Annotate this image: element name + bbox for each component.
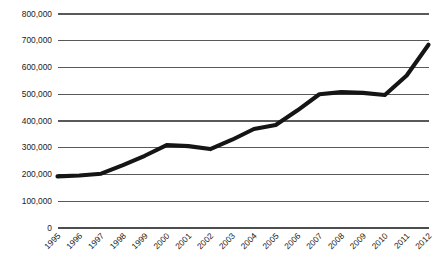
data-series-group	[58, 45, 429, 177]
x-axis-tick-label: 2004	[239, 231, 259, 251]
line-chart: 800,000700,000600,000500,000400,000300,0…	[0, 0, 433, 275]
x-axis-tick-label: 2009	[348, 231, 368, 251]
y-axis-tick-label: 0	[47, 223, 52, 233]
y-axis-tick-label: 400,000	[22, 116, 53, 126]
x-axis-tick-label: 2002	[195, 231, 215, 251]
x-axis-tick-label: 2005	[260, 231, 280, 251]
y-axis-tick-label: 200,000	[22, 169, 53, 179]
xtick-labels-group: 1995199619971998199920002001200220032004…	[42, 231, 433, 251]
x-axis-tick-label: 2001	[173, 231, 193, 251]
x-axis-tick-label: 2003	[217, 231, 237, 251]
x-axis-tick-label: 1999	[129, 231, 149, 251]
y-axis-tick-label: 800,000	[22, 9, 53, 19]
ytick-labels-group: 800,000700,000600,000500,000400,000300,0…	[22, 9, 53, 233]
x-axis-tick-label: 1998	[108, 231, 128, 251]
x-axis-tick-label: 2000	[151, 231, 171, 251]
x-axis-tick-label: 2008	[326, 231, 346, 251]
x-axis-tick-label: 2007	[304, 231, 324, 251]
x-axis-tick-label: 2010	[370, 231, 390, 251]
x-axis-tick-label: 1997	[86, 231, 106, 251]
y-axis-tick-label: 600,000	[22, 62, 53, 72]
x-axis-tick-label: 2011	[392, 231, 412, 251]
x-axis-tick-label: 2012	[413, 231, 433, 251]
x-axis-tick-label: 1996	[64, 231, 84, 251]
y-axis-tick-label: 100,000	[22, 196, 53, 206]
y-axis-tick-label: 700,000	[22, 35, 53, 45]
y-axis-tick-label: 300,000	[22, 142, 53, 152]
x-axis-tick-label: 1995	[42, 231, 62, 251]
x-axis-tick-label: 2006	[282, 231, 302, 251]
gridlines-group	[58, 14, 429, 228]
y-axis-tick-label: 500,000	[22, 89, 53, 99]
chart-canvas: 800,000700,000600,000500,000400,000300,0…	[0, 0, 433, 275]
data-line-series	[58, 45, 429, 177]
